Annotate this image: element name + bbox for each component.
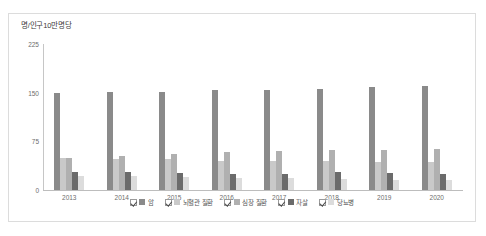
legend-color-swatch — [328, 199, 334, 205]
checkbox-checked-icon[interactable] — [165, 199, 172, 206]
bar — [78, 176, 84, 190]
checkbox-checked-icon[interactable] — [224, 199, 231, 206]
bar-group — [96, 44, 149, 190]
bar-group — [148, 44, 201, 190]
y-tick-label: 0 — [35, 187, 39, 194]
legend-color-swatch — [288, 199, 294, 205]
bar — [131, 176, 137, 190]
plot-area: 075150225 201320142015201620172018201920… — [43, 44, 463, 190]
bar-group — [411, 44, 464, 190]
y-tick-label: 75 — [32, 138, 39, 145]
legend-item-2[interactable]: 심장 질환 — [224, 197, 267, 207]
legend-label: 자살 — [296, 197, 308, 207]
bar — [183, 177, 189, 190]
bar-group — [306, 44, 359, 190]
y-tick-label: 225 — [28, 41, 39, 48]
bar — [446, 180, 452, 190]
legend-item-4[interactable]: 당뇨병 — [319, 197, 354, 207]
bar-group — [43, 44, 96, 190]
bar-group — [201, 44, 254, 190]
checkbox-checked-icon[interactable] — [130, 199, 137, 206]
y-tick-label: 150 — [28, 89, 39, 96]
legend-label: 뇌혈관 질환 — [183, 197, 214, 207]
legend-color-swatch — [234, 199, 240, 205]
bar — [393, 180, 399, 190]
legend-item-3[interactable]: 자살 — [278, 197, 308, 207]
bar — [288, 178, 294, 190]
legend-label: 심장 질환 — [242, 197, 267, 207]
bar — [341, 179, 347, 190]
bar-group — [253, 44, 306, 190]
checkbox-checked-icon[interactable] — [278, 199, 285, 206]
legend-label: 암 — [148, 197, 154, 207]
chart-card: 명/인구10만명당 075150225 20132014201520162017… — [8, 13, 476, 222]
chart-legend: 암뇌혈관 질환심장 질환자살당뇨병 — [9, 197, 475, 207]
legend-label: 당뇨병 — [337, 197, 354, 207]
bar — [236, 178, 242, 190]
legend-color-swatch — [174, 199, 180, 205]
legend-item-1[interactable]: 뇌혈관 질환 — [165, 197, 214, 207]
y-axis-unit-caption: 명/인구10만명당 — [21, 19, 72, 30]
bar-group — [358, 44, 411, 190]
legend-item-0[interactable]: 암 — [130, 197, 154, 207]
checkbox-checked-icon[interactable] — [319, 199, 326, 206]
legend-color-swatch — [139, 199, 145, 205]
x-axis-line — [43, 190, 463, 191]
